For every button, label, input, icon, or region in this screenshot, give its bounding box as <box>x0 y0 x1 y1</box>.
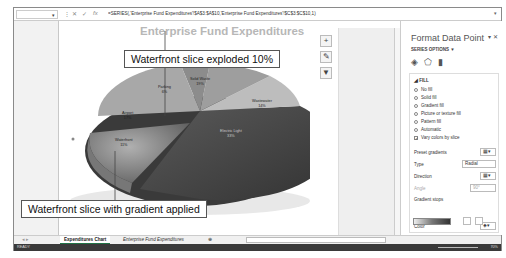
enter-icon[interactable]: ✓ <box>82 10 87 17</box>
vary-colors-checkbox[interactable]: ✓Vary colors by slice <box>414 135 459 140</box>
fill-section-header[interactable]: ◢ FILL <box>414 78 429 83</box>
callout-exploded: Waterfront slice exploded 10% <box>124 50 280 68</box>
angle-input[interactable]: 90° <box>470 184 496 192</box>
tab-scroll-left[interactable]: ◂ ▸ <box>18 236 33 244</box>
pane-title: Format Data Point <box>411 33 484 43</box>
series-options-dropdown[interactable]: SERIES OPTIONS ▼ <box>411 47 455 52</box>
new-sheet-button[interactable]: ⊕ <box>204 236 216 244</box>
zoom-level[interactable]: 70% <box>490 244 498 251</box>
picture-fill-radio[interactable]: Picture or texture fill <box>414 111 461 116</box>
angle-label: Angle <box>414 186 426 191</box>
type-label: Type <box>414 162 424 167</box>
chart-tools: + ✎ ▼ <box>320 35 334 83</box>
slice-label-parking: Parking6% <box>158 85 171 94</box>
cancel-icon[interactable]: ✕ <box>72 10 77 17</box>
chart-styles-button[interactable]: ✎ <box>320 51 332 63</box>
excel-window: ▾ ⋮ ✕ ✓ fx =SERIES(,'Enterprise Fund Exp… <box>13 7 502 251</box>
pane-body: ◢ FILL No fill Solid fill Gradient fill … <box>409 73 499 233</box>
no-fill-radio[interactable]: No fill <box>414 87 432 92</box>
dots-icon: ⋮ <box>64 10 70 17</box>
slice-label-wastewater: Wastewater14% <box>252 99 272 108</box>
tab-enterprise-fund-expenditures[interactable]: Enterprise Fund Expenditures <box>119 236 188 244</box>
solid-fill-radio[interactable]: Solid fill <box>414 95 437 100</box>
slice-label-solid-waste: Solid Waste19% <box>190 77 210 86</box>
expand-formula-icon[interactable]: ▾ <box>494 10 497 16</box>
callout-gradient: Waterfront slice with gradient applied <box>21 200 207 218</box>
formula-bar: ▾ ⋮ ✕ ✓ fx =SERIES(,'Enterprise Fund Exp… <box>14 8 501 21</box>
chart-elements-button[interactable]: + <box>320 35 332 47</box>
automatic-radio[interactable]: Automatic <box>414 127 441 132</box>
direction-label: Direction <box>414 174 432 179</box>
sheet-gray-area <box>338 28 398 235</box>
close-pane-icon[interactable]: ▾ ✕ <box>488 33 498 40</box>
fx-icon[interactable]: fx <box>93 10 98 16</box>
status-ready: READY <box>17 245 30 249</box>
slice-label-electric-light: Electric Light33% <box>220 129 242 138</box>
gradient-fill-radio[interactable]: Gradient fill <box>414 103 444 108</box>
horizontal-scrollbar[interactable] <box>246 237 386 243</box>
preset-gradients-label: Preset gradients <box>414 150 447 155</box>
add-stop-button[interactable] <box>463 217 471 225</box>
chevron-down-icon[interactable]: ▾ <box>52 12 55 18</box>
preset-gradients-button[interactable]: ▦▾ <box>480 148 496 156</box>
effects-icon[interactable]: ⬠ <box>424 57 438 67</box>
zoom-slider[interactable] <box>438 247 478 248</box>
remove-stop-button[interactable] <box>475 217 483 225</box>
tab-expenditures-chart[interactable]: Expenditures Chart <box>60 236 110 244</box>
slice-label-airport: Airport17% <box>122 111 133 120</box>
slice-label-waterfront: Waterfront11% <box>115 138 133 147</box>
gradient-stops-slider[interactable] <box>413 218 451 225</box>
series-options-icon[interactable]: ▮ <box>438 57 449 67</box>
pattern-fill-radio[interactable]: Pattern fill <box>414 119 441 124</box>
name-box[interactable]: ▾ <box>16 10 58 19</box>
status-bar: READY 70% <box>14 244 501 251</box>
formula-input[interactable]: =SERIES(,'Enterprise Fund Expenditures'!… <box>108 9 488 19</box>
fill-line-icon[interactable]: ◈ <box>411 57 424 67</box>
chart-filters-button[interactable]: ▼ <box>320 67 332 79</box>
sheet-tabs-bar: ◂ ▸ Expenditures Chart Enterprise Fund E… <box>14 235 501 244</box>
format-data-point-pane: Format Data Point ▾ ✕ SERIES OPTIONS ▼ ◈… <box>400 21 502 235</box>
gradient-stops-label: Gradient stops <box>414 197 443 202</box>
type-select[interactable]: Radial <box>462 160 496 168</box>
direction-button[interactable]: ▦▾ <box>480 172 496 180</box>
pane-tab-icons: ◈⬠▮ <box>411 57 449 67</box>
